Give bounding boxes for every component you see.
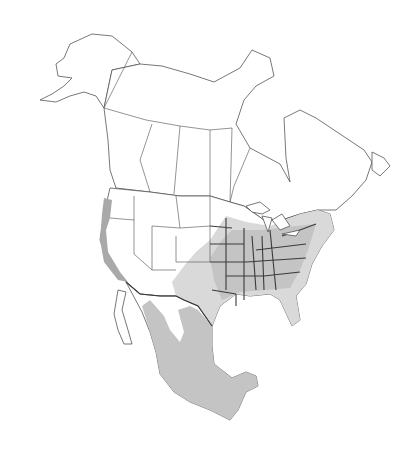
range-mexico [142,300,258,420]
baja-california [114,290,132,344]
newfoundland [372,152,390,176]
range-map [0,0,414,452]
